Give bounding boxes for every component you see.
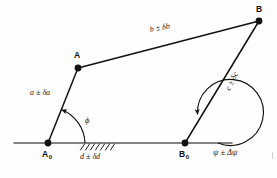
angle-arc-phi — [62, 110, 85, 143]
point-label-a0: A0 — [42, 150, 52, 159]
point-label-a: A — [74, 51, 80, 60]
angle-label-psi: ψ ± Δψ — [213, 148, 237, 157]
point-label-b0: B0 — [179, 150, 189, 159]
joint-a-dot — [75, 65, 82, 72]
ground-hatching-icon — [81, 144, 115, 150]
link-label-a: a ± δa — [30, 89, 50, 97]
angle-label-phi: ϕ — [85, 116, 89, 125]
joint-a0-dot — [45, 140, 52, 147]
joint-b0-dot — [182, 140, 189, 147]
joint-b-dot — [256, 18, 263, 25]
link-crank-a — [48, 68, 78, 143]
scan-artifact — [272, 152, 273, 159]
point-label-b: B — [256, 5, 262, 14]
link-label-d: d ± δd — [80, 153, 100, 161]
link-rocker-c — [185, 21, 259, 143]
linkage-diagram: B A A0 B0 a ± δa b ± δb c ± δc d ± δd ϕ … — [0, 0, 277, 178]
